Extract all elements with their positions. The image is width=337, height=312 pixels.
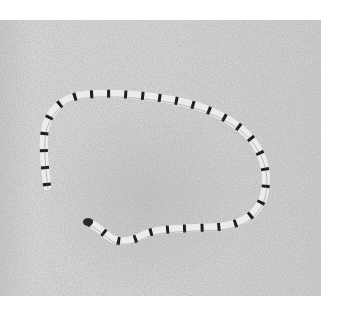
snake-head <box>83 218 93 226</box>
snake-photo <box>0 20 321 296</box>
snake-illustration <box>0 20 321 296</box>
